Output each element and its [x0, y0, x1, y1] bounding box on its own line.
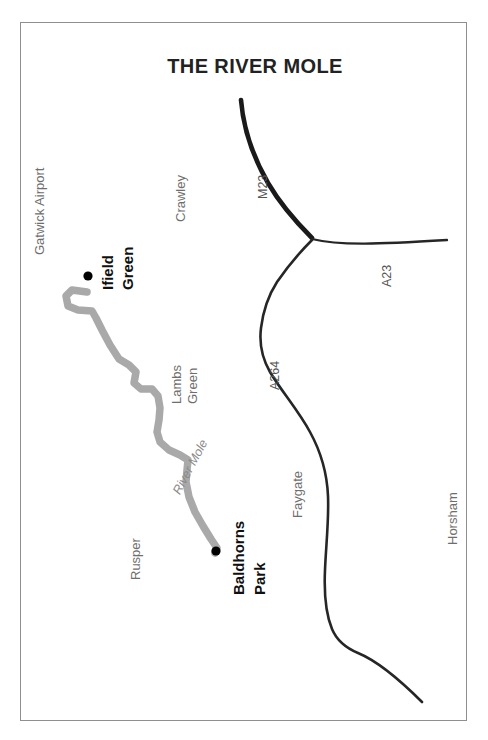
label-ifield-green-line1: Ifield — [100, 255, 117, 290]
label-lambs-green-line1: Lambs — [170, 365, 185, 404]
marker-ifield-green — [83, 271, 92, 280]
label-baldhorns-park-line2: Park — [252, 562, 269, 595]
label-road-a23: A23 — [380, 265, 394, 287]
label-horsham: Horsham — [446, 492, 461, 545]
map-graphics-layer — [0, 0, 488, 740]
label-road-m23: M23 — [256, 175, 270, 199]
label-gatwick-airport: Gatwick Airport — [33, 168, 48, 255]
marker-baldhorns-park — [211, 546, 220, 555]
label-baldhorns-park-line1: Baldhorns — [231, 521, 248, 595]
road-a264-path — [260, 240, 422, 702]
label-crawley: Crawley — [174, 175, 189, 222]
road-m23-path — [241, 100, 312, 238]
river-mole-path — [66, 290, 217, 553]
label-rusper: Rusper — [129, 538, 144, 580]
label-road-a264: A264 — [268, 361, 282, 390]
label-ifield-green-line2: Green — [120, 247, 137, 290]
road-a23-path — [312, 239, 447, 244]
label-lambs-green-line2: Green — [186, 368, 201, 404]
label-faygate: Faygate — [291, 471, 306, 518]
map-figure: THE RIVER MOLE Gatwick Airport Crawley I… — [0, 0, 488, 740]
